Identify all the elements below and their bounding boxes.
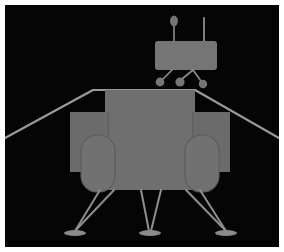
lunar-lander-illustration — [5, 5, 279, 247]
left-propellant-tank — [81, 135, 115, 192]
night-sky-background — [5, 5, 279, 247]
instrument-deck-box — [155, 41, 217, 70]
right-footpad — [215, 230, 237, 236]
right-propellant-tank — [185, 135, 219, 192]
center-sensor-sphere — [175, 77, 184, 86]
right-sensor-sphere — [199, 80, 207, 88]
left-sensor-sphere — [156, 78, 165, 87]
white-border-frame — [0, 0, 284, 252]
main-lander-body — [105, 90, 195, 190]
left-antenna-dish-icon — [170, 16, 178, 27]
image-root: Lunar Lander Silhouette Front elevation … — [0, 0, 284, 252]
center-footpad — [139, 230, 161, 236]
left-footpad — [64, 230, 86, 236]
